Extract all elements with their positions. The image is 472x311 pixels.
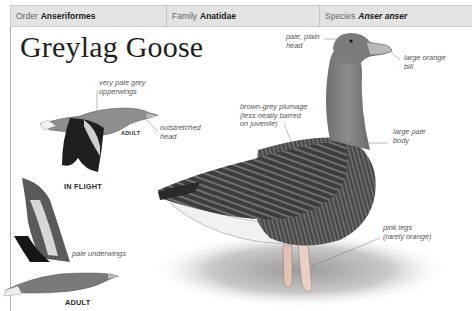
- field-guide-page: Order Anseriformes Family Anatidae Speci…: [0, 0, 472, 311]
- annotation-line: upperwings: [99, 88, 145, 97]
- underwings-annotation: pale underwings: [72, 250, 126, 259]
- bottom-bird-age-label: ADULT: [65, 298, 91, 307]
- annotation-line: body: [393, 137, 425, 146]
- bill-pointer: [392, 53, 400, 60]
- body-annotation: large pale body: [393, 128, 425, 145]
- annotation-line: bill: [404, 63, 446, 72]
- in-flight-heading: IN FLIGHT: [64, 182, 102, 191]
- left-leg: [283, 245, 292, 288]
- bill-annotation: large orange bill: [404, 54, 446, 71]
- annotation-line: head: [160, 133, 201, 142]
- eye: [349, 39, 352, 42]
- pale-head-annotation: pale, plain head: [286, 33, 320, 50]
- flying-goose-bottom: [4, 178, 120, 296]
- annotation-line: head: [286, 42, 320, 51]
- legs-annotation: pink legs (rarely orange): [383, 224, 431, 241]
- head-pointer: [147, 120, 158, 132]
- upperwings-annotation: very pale grey upperwings: [99, 79, 145, 96]
- outstretched-head-annotation: outstretched head: [160, 124, 201, 141]
- flying-goose-top: [40, 90, 158, 172]
- bill: [366, 42, 391, 55]
- annotation-line: (rarely orange): [383, 233, 431, 242]
- plumage-annotation: brown-grey plumage (less neatly barred o…: [240, 103, 307, 129]
- main-goose: [150, 33, 450, 308]
- annotation-line: on juvenile): [240, 120, 307, 129]
- top-bird-age-label: ADULT: [121, 130, 140, 136]
- bottom-bird-body: [6, 273, 118, 293]
- annotation-line: pale underwings: [72, 250, 126, 259]
- goose-illustrations: [0, 0, 472, 311]
